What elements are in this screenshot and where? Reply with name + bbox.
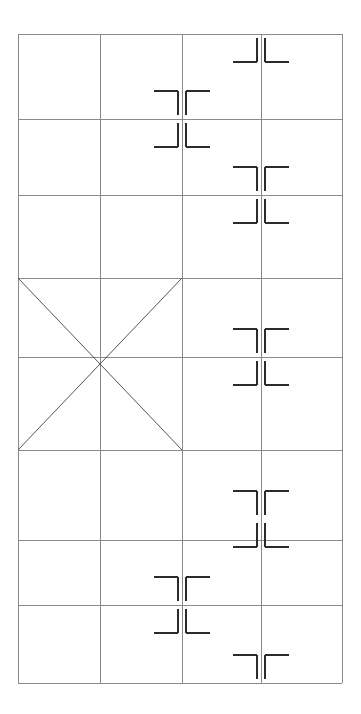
grid-layer xyxy=(18,34,342,683)
registration-marks-layer xyxy=(154,38,289,679)
page-canvas xyxy=(0,0,361,714)
layout-sheet xyxy=(0,0,361,714)
